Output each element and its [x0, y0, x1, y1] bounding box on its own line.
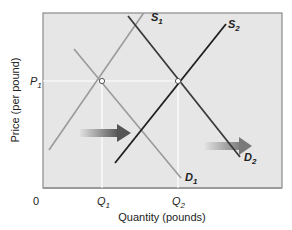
- tick-q2: Q2: [172, 195, 186, 210]
- x-axis-title: Quantity (pounds): [118, 211, 205, 223]
- tick-q1: Q1: [97, 195, 110, 210]
- equilibrium-point-2: [175, 78, 180, 83]
- supply-demand-chart: S1 S2 D1 D2 P1 0 Q1 Q2 Quantity (pounds)…: [0, 0, 292, 230]
- equilibrium-point-1: [99, 78, 104, 83]
- y-axis-title: Price (per pound): [9, 58, 21, 143]
- tick-p1: P1: [30, 75, 42, 90]
- tick-origin: 0: [33, 195, 39, 207]
